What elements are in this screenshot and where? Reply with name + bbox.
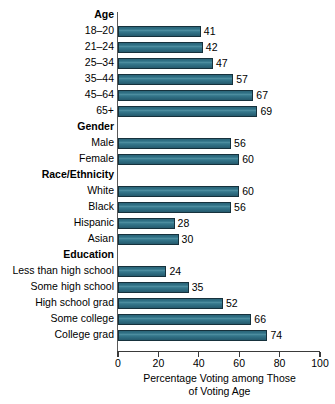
bar [118,154,239,166]
bar [118,298,223,310]
x-axis-title-line-2: of Voting Age [118,385,321,398]
x-axis-title-line-1: Percentage Voting among Those [143,372,296,384]
bar [118,26,201,38]
category-label: Black [0,200,114,213]
bar [118,330,267,342]
bar-value-label: 56 [231,136,246,150]
group-label-gender: Gender [0,120,114,133]
bar [118,90,253,102]
group-header-row: Age [0,8,335,24]
bar-row: Black56 [0,200,335,216]
x-tick-label-0: 0 [115,357,121,369]
category-label: White [0,184,114,197]
bar-row: Female60 [0,152,335,168]
category-label: 65+ [0,104,114,117]
group-label-education: Education [0,248,114,261]
group-header-row: Education [0,248,335,264]
x-axis-line [117,351,320,352]
bar-value-label: 47 [213,56,228,70]
bar-value-label: 41 [201,24,216,38]
bar [118,138,231,150]
bar-row: 18–2041 [0,24,335,40]
category-label: 35–44 [0,72,114,85]
bar [118,186,239,198]
x-tick-label-80: 80 [274,357,286,369]
bar [118,58,213,70]
x-tick-label-20: 20 [153,357,165,369]
bar-value-label: 60 [239,152,254,166]
bar-value-label: 24 [166,264,181,278]
x-tick-label-60: 60 [233,357,245,369]
bar-value-label: 67 [253,88,268,102]
bar-value-label: 35 [189,280,204,294]
category-label: Some high school [0,280,114,293]
group-header-row: Race/Ethnicity [0,168,335,184]
bar [118,282,189,294]
category-label: High school grad [0,296,114,309]
bar [118,106,257,118]
bar-value-label: 42 [203,40,218,54]
x-tick-label-100: 100 [311,357,329,369]
bar [118,218,175,230]
bar-row: Asian30 [0,232,335,248]
group-label-age: Age [0,8,114,21]
bar-row: College grad74 [0,328,335,344]
bar-row: High school grad52 [0,296,335,312]
category-label: College grad [0,328,114,341]
category-label: Hispanic [0,216,114,229]
category-label: Female [0,152,114,165]
category-label: 45–64 [0,88,114,101]
bar [118,234,179,246]
bar-row: 65+69 [0,104,335,120]
bar [118,314,251,326]
group-label-race-ethnicity: Race/Ethnicity [0,168,114,181]
category-label: Less than high school [0,264,114,277]
bar-row: Hispanic28 [0,216,335,232]
bar-row: 25–3447 [0,56,335,72]
bar-value-label: 56 [231,200,246,214]
bar [118,202,231,214]
category-label: 21–24 [0,40,114,53]
bar-row: Some college66 [0,312,335,328]
bar-row: 21–2442 [0,40,335,56]
bar-value-label: 69 [257,104,272,118]
bar-value-label: 28 [175,216,190,230]
bar-row: Male56 [0,136,335,152]
bar-row: Less than high school24 [0,264,335,280]
bar-value-label: 74 [267,328,282,342]
bar-value-label: 30 [179,232,194,246]
bar-row: 35–4457 [0,72,335,88]
x-tick-label-40: 40 [193,357,205,369]
bar-row: White60 [0,184,335,200]
bar-row: Some high school35 [0,280,335,296]
x-axis-title: Percentage Voting among Those of Voting … [118,372,321,397]
category-label: 25–34 [0,56,114,69]
category-label: Some college [0,312,114,325]
bar-value-label: 52 [223,296,238,310]
category-label: Asian [0,232,114,245]
bar [118,42,203,54]
bar-value-label: 60 [239,184,254,198]
group-header-row: Gender [0,120,335,136]
plot-area: 020406080100 Age18–204121–244225–344735–… [0,0,335,360]
category-label: Male [0,136,114,149]
bar-row: 45–6467 [0,88,335,104]
bar [118,74,233,86]
bar [118,266,166,278]
category-label: 18–20 [0,24,114,37]
bar-value-label: 57 [233,72,248,86]
bar-value-label: 66 [251,312,266,326]
bar-chart: 020406080100 Age18–204121–244225–344735–… [0,0,335,404]
